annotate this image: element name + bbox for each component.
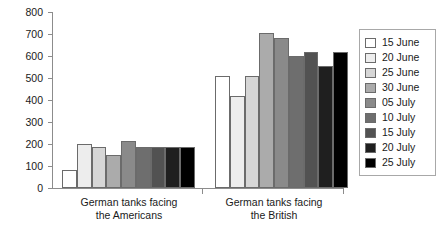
x-axis-category-label-line: the Americans bbox=[59, 209, 199, 222]
bars-layer bbox=[52, 12, 344, 188]
legend-swatch bbox=[365, 128, 376, 138]
bar bbox=[165, 147, 180, 188]
legend-label: 20 July bbox=[382, 142, 415, 153]
bar bbox=[274, 38, 289, 188]
legend-item: 05 July bbox=[365, 95, 431, 110]
y-axis-tick-label: 800 bbox=[0, 7, 43, 18]
bar bbox=[136, 147, 151, 188]
legend-label: 15 July bbox=[382, 127, 415, 138]
bar bbox=[92, 147, 107, 188]
legend: 15 June20 June25 June30 June05 July10 Ju… bbox=[359, 29, 436, 176]
legend-item: 20 July bbox=[365, 140, 431, 155]
legend-swatch bbox=[365, 113, 376, 123]
bar bbox=[259, 33, 274, 188]
x-axis-category-label-line: German tanks facing bbox=[204, 196, 344, 209]
x-axis-line bbox=[52, 188, 344, 189]
legend-label: 30 June bbox=[382, 82, 419, 93]
y-axis-tick-label: 600 bbox=[0, 51, 43, 62]
y-axis-tick-label: 500 bbox=[0, 73, 43, 84]
legend-label: 10 July bbox=[382, 112, 415, 123]
legend-swatch bbox=[365, 83, 376, 93]
x-axis-separator-tick bbox=[202, 189, 203, 194]
legend-swatch bbox=[365, 38, 376, 48]
x-axis-category-label-line: the British bbox=[204, 209, 344, 222]
y-axis-tick bbox=[48, 188, 52, 189]
legend-swatch bbox=[365, 53, 376, 63]
y-axis-tick-label: 400 bbox=[0, 95, 43, 106]
legend-label: 20 June bbox=[382, 52, 419, 63]
bar bbox=[62, 170, 77, 188]
legend-item: 25 June bbox=[365, 65, 431, 80]
bar bbox=[245, 76, 260, 188]
bar bbox=[289, 56, 304, 188]
legend-label: 25 June bbox=[382, 67, 419, 78]
y-axis-tick-label: 100 bbox=[0, 161, 43, 172]
legend-swatch bbox=[365, 143, 376, 153]
bar bbox=[215, 76, 230, 188]
y-axis-tick-label: 300 bbox=[0, 117, 43, 128]
bar bbox=[151, 147, 166, 188]
bar bbox=[180, 147, 195, 188]
bar bbox=[333, 52, 348, 188]
y-axis-tick-label: 700 bbox=[0, 29, 43, 40]
legend-item: 20 June bbox=[365, 50, 431, 65]
legend-label: 25 July bbox=[382, 157, 415, 168]
bar bbox=[106, 155, 121, 188]
legend-item: 15 July bbox=[365, 125, 431, 140]
legend-swatch bbox=[365, 158, 376, 168]
legend-swatch bbox=[365, 98, 376, 108]
legend-label: 05 July bbox=[382, 97, 415, 108]
y-axis-tick-label: 200 bbox=[0, 139, 43, 150]
bar bbox=[318, 66, 333, 188]
legend-swatch bbox=[365, 68, 376, 78]
x-axis-category-label: German tanks facingthe Americans bbox=[59, 196, 199, 221]
legend-label: 15 June bbox=[382, 37, 419, 48]
legend-item: 30 June bbox=[365, 80, 431, 95]
bar-chart: 0100200300400500600700800 German tanks f… bbox=[0, 0, 443, 244]
legend-item: 10 July bbox=[365, 110, 431, 125]
x-axis-category-label: German tanks facingthe British bbox=[204, 196, 344, 221]
bar bbox=[121, 141, 136, 188]
y-axis-tick-label: 0 bbox=[0, 183, 43, 194]
bar bbox=[230, 96, 245, 188]
x-axis-category-label-line: German tanks facing bbox=[59, 196, 199, 209]
x-axis-separator-tick bbox=[343, 189, 344, 194]
legend-item: 15 June bbox=[365, 35, 431, 50]
bar bbox=[77, 144, 92, 188]
bar bbox=[304, 52, 319, 188]
legend-item: 25 July bbox=[365, 155, 431, 170]
